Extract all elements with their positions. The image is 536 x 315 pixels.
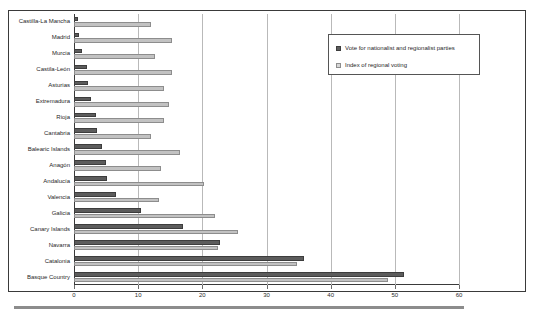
bar-row: Andalucía — [0, 173, 536, 189]
x-tick-label-40: 40 — [327, 291, 334, 299]
bar-row: Navarra — [0, 237, 536, 253]
x-tick-label-60: 60 — [456, 291, 463, 299]
category-label: Anagón — [49, 161, 70, 169]
category-label: Asturias — [48, 81, 70, 89]
tickmark-10 — [138, 285, 139, 289]
bar-nationalist-vote — [74, 33, 79, 38]
tickmark-0 — [74, 285, 75, 289]
bar-regional-voting-index — [74, 22, 151, 27]
bar-row: Canary Islands — [0, 221, 536, 237]
bar-nationalist-vote — [74, 65, 87, 70]
tickmark-50 — [395, 285, 396, 289]
legend-swatch-dark-icon — [336, 46, 341, 51]
bar-row: Basque Country — [0, 269, 536, 285]
tickmark-30 — [267, 285, 268, 289]
category-label: Andalucía — [43, 177, 70, 185]
bar-regional-voting-index — [74, 102, 169, 107]
bar-regional-voting-index — [74, 230, 238, 235]
bar-nationalist-vote — [74, 176, 107, 181]
category-label: Basque Country — [27, 273, 70, 281]
bar-regional-voting-index — [74, 214, 215, 219]
category-label: Castilla-La Mancha — [19, 17, 70, 25]
tickmark-60 — [459, 285, 460, 289]
bar-nationalist-vote — [74, 160, 106, 165]
bar-row: Balearic Islands — [0, 142, 536, 158]
bar-nationalist-vote — [74, 240, 220, 245]
bar-row: Catalonia — [0, 253, 536, 269]
bar-regional-voting-index — [74, 150, 180, 155]
bar-regional-voting-index — [74, 38, 172, 43]
bar-nationalist-vote — [74, 81, 88, 86]
legend-item-0: Vote for nationalist and regionalist par… — [336, 44, 455, 52]
legend-swatch-light-icon — [336, 63, 341, 68]
category-label: Valencia — [47, 193, 70, 201]
x-tick-label-30: 30 — [263, 291, 270, 299]
bar-nationalist-vote — [74, 97, 91, 102]
bar-regional-voting-index — [74, 278, 388, 283]
bar-regional-voting-index — [74, 86, 164, 91]
bar-regional-voting-index — [74, 182, 204, 187]
legend-label-0: Vote for nationalist and regionalist par… — [345, 44, 455, 52]
bar-row: Valencia — [0, 189, 536, 205]
category-label: Cantabria — [44, 129, 70, 137]
bar-regional-voting-index — [74, 166, 161, 171]
bar-row: Castilla-La Mancha — [0, 14, 536, 30]
x-tick-label-50: 50 — [391, 291, 398, 299]
bar-nationalist-vote — [74, 224, 183, 229]
bar-regional-voting-index — [74, 246, 218, 251]
legend-label-1: Index of regional voting — [345, 61, 407, 69]
bar-nationalist-vote — [74, 17, 78, 22]
bar-regional-voting-index — [74, 54, 155, 59]
bar-nationalist-vote — [74, 208, 141, 213]
category-label: Balearic Islands — [28, 145, 70, 153]
category-label: Rioja — [56, 113, 70, 121]
x-tick-label-10: 10 — [135, 291, 142, 299]
category-label: Navarra — [49, 241, 70, 249]
bar-nationalist-vote — [74, 49, 82, 54]
chart-legend: Vote for nationalist and regionalist par… — [328, 34, 480, 75]
bar-row: Extremadura — [0, 94, 536, 110]
x-tick-label-20: 20 — [199, 291, 206, 299]
tickmark-20 — [202, 285, 203, 289]
bar-row: Rioja — [0, 110, 536, 126]
bar-regional-voting-index — [74, 262, 297, 267]
bar-nationalist-vote — [74, 256, 304, 261]
chart-root: 0102030405060 Castilla-La ManchaMadridMu… — [0, 0, 536, 315]
bar-row: Anagón — [0, 157, 536, 173]
bar-regional-voting-index — [74, 198, 159, 203]
bar-nationalist-vote — [74, 272, 404, 277]
bar-row: Asturias — [0, 78, 536, 94]
bar-regional-voting-index — [74, 134, 151, 139]
category-label: Extremadura — [36, 97, 70, 105]
legend-item-1: Index of regional voting — [336, 61, 407, 69]
category-label: Madrid — [52, 33, 70, 41]
bar-row: Galicia — [0, 205, 536, 221]
bar-nationalist-vote — [74, 144, 102, 149]
category-label: Castila-León — [36, 65, 70, 73]
bar-regional-voting-index — [74, 118, 164, 123]
category-label: Catalonia — [45, 257, 70, 265]
bar-nationalist-vote — [74, 192, 116, 197]
category-label: Canary Islands — [30, 225, 70, 233]
bar-nationalist-vote — [74, 128, 97, 133]
bar-row: Cantabria — [0, 126, 536, 142]
tickmark-40 — [331, 285, 332, 289]
bar-nationalist-vote — [74, 113, 96, 118]
category-label: Murcia — [52, 49, 70, 57]
footer-rule — [14, 306, 464, 309]
bar-regional-voting-index — [74, 70, 172, 75]
x-tick-label-0: 0 — [72, 291, 75, 299]
category-label: Galicia — [52, 209, 70, 217]
